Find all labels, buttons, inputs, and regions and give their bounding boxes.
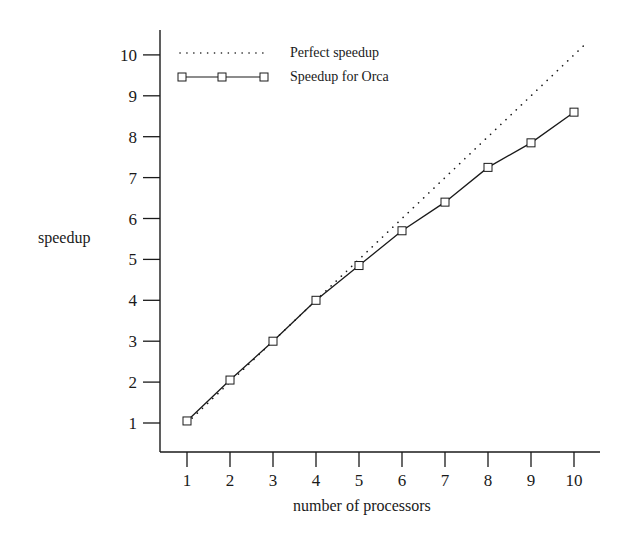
orca-data-point-marker-icon xyxy=(312,296,320,304)
y-tick-label: 9 xyxy=(129,87,138,106)
orca-data-point-marker-icon xyxy=(441,198,449,206)
orca-data-point-marker-icon xyxy=(355,262,363,270)
x-tick-label: 6 xyxy=(398,471,407,490)
x-tick-label: 9 xyxy=(527,471,536,490)
legend-orca-marker-icon xyxy=(260,73,268,81)
y-tick-label: 6 xyxy=(129,210,138,229)
orca-speedup-line xyxy=(187,112,574,421)
x-tick-label: 10 xyxy=(566,471,583,490)
x-tick-label: 3 xyxy=(269,471,278,490)
x-tick-label: 7 xyxy=(441,471,450,490)
orca-data-point-marker-icon xyxy=(398,227,406,235)
y-tick-label: 5 xyxy=(129,250,138,269)
x-tick-label: 5 xyxy=(355,471,364,490)
series-layer xyxy=(183,45,585,425)
speedup-chart: 12345678910 12345678910 Perfect speedup … xyxy=(0,0,627,549)
y-tick-label: 10 xyxy=(120,46,137,65)
x-tick-label: 8 xyxy=(484,471,493,490)
y-tick-label: 7 xyxy=(129,169,138,188)
x-tick-label: 4 xyxy=(312,471,321,490)
x-tick-label: 1 xyxy=(183,471,192,490)
y-tick-label: 3 xyxy=(129,332,138,351)
y-tick-label: 4 xyxy=(129,291,138,310)
legend-orca-marker-icon xyxy=(178,73,186,81)
orca-data-point-marker-icon xyxy=(226,376,234,384)
orca-data-point-marker-icon xyxy=(269,337,277,345)
orca-data-point-marker-icon xyxy=(484,163,492,171)
orca-data-point-marker-icon xyxy=(527,139,535,147)
y-tick-label: 8 xyxy=(129,128,138,147)
y-axis-ticks: 12345678910 xyxy=(120,46,160,433)
legend xyxy=(178,53,268,81)
orca-data-point-marker-icon xyxy=(570,108,578,116)
x-axis-title: number of processors xyxy=(293,497,431,515)
orca-data-point-marker-icon xyxy=(183,417,191,425)
y-tick-label: 2 xyxy=(129,373,138,392)
legend-orca-marker-icon xyxy=(218,73,226,81)
perfect-speedup-line xyxy=(187,45,585,423)
legend-label-perfect: Perfect speedup xyxy=(290,45,379,61)
x-axis-ticks: 12345678910 xyxy=(183,452,583,490)
legend-label-orca: Speedup for Orca xyxy=(290,69,389,85)
y-tick-label: 1 xyxy=(129,414,138,433)
y-axis-title: speedup xyxy=(38,229,90,247)
x-tick-label: 2 xyxy=(226,471,235,490)
